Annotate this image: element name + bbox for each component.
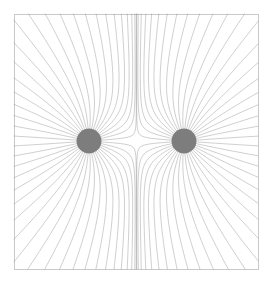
field-line — [148, 149, 173, 269]
right-charge — [172, 129, 197, 154]
left-charge — [77, 129, 102, 154]
field-line — [197, 142, 258, 146]
field-line — [173, 153, 188, 269]
field-line — [85, 153, 100, 269]
field-line — [188, 21, 258, 129]
field-line — [100, 147, 129, 269]
field-line — [14, 153, 85, 262]
field-line — [14, 149, 79, 190]
field-line — [95, 14, 106, 130]
field-line — [193, 150, 258, 203]
field-line — [193, 79, 258, 132]
field-line — [14, 150, 80, 204]
field-line — [167, 14, 178, 130]
field-line — [188, 153, 258, 261]
field-line — [14, 142, 76, 146]
field-line — [95, 152, 106, 269]
field-line — [190, 44, 258, 130]
field-line — [101, 14, 135, 138]
field-line — [99, 149, 124, 269]
field-line — [138, 14, 172, 138]
field-line — [148, 14, 173, 133]
field-line — [197, 136, 258, 140]
field-line — [138, 144, 172, 269]
field-line-figure — [0, 0, 273, 286]
field-line — [144, 147, 173, 269]
field-line — [99, 14, 124, 133]
field-line — [100, 14, 129, 135]
field-line — [154, 150, 175, 269]
field-line — [190, 152, 258, 238]
field-line — [14, 151, 81, 220]
field-line — [14, 147, 78, 178]
field-line — [179, 14, 200, 129]
field-line — [97, 151, 113, 269]
field-line — [73, 153, 94, 269]
field-line — [195, 105, 258, 135]
field-line — [192, 63, 258, 131]
charges-group — [77, 129, 197, 154]
field-line — [73, 14, 94, 129]
field-line — [192, 151, 258, 219]
field-line — [173, 14, 188, 129]
field-line — [98, 150, 119, 269]
field-line — [85, 14, 100, 129]
field-line — [179, 153, 200, 269]
field-line — [14, 152, 83, 239]
field-line — [14, 62, 81, 131]
field-line — [97, 14, 113, 131]
field-line — [194, 149, 258, 190]
field-line — [160, 151, 176, 269]
field-line — [144, 14, 173, 135]
field-line — [14, 43, 83, 130]
field-line — [160, 14, 176, 131]
field-line-canvas — [0, 0, 273, 286]
field-line — [195, 147, 258, 177]
field-line — [101, 144, 135, 269]
field-lines-group — [14, 14, 258, 269]
field-line — [14, 92, 79, 133]
field-line — [14, 78, 80, 132]
field-line — [14, 20, 85, 129]
field-line — [14, 136, 76, 140]
field-line — [14, 104, 78, 135]
field-line — [194, 93, 258, 134]
field-line — [167, 152, 178, 269]
